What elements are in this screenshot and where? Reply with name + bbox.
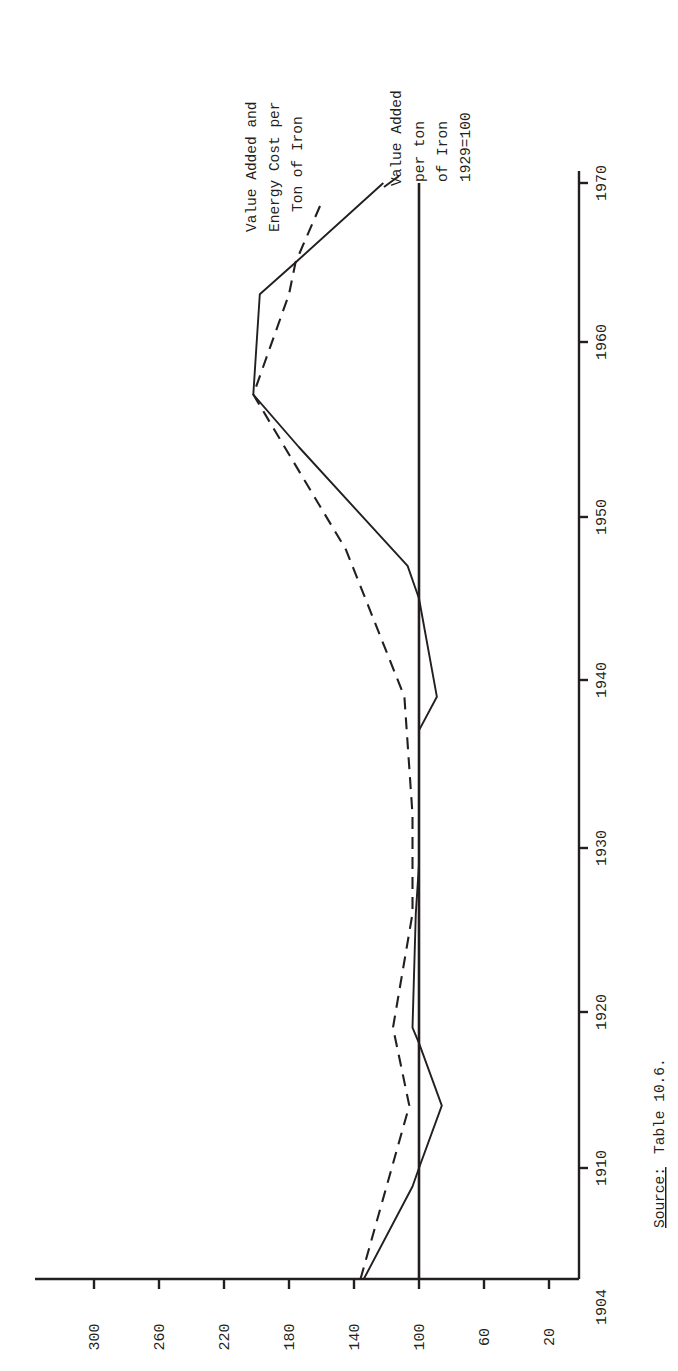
value-tick-label: 260 bbox=[152, 1323, 169, 1350]
source-label: Source: bbox=[652, 1167, 668, 1228]
legend-dashed-line-1: Value Added and bbox=[244, 101, 260, 232]
year-tick-label: 1940 bbox=[594, 662, 611, 698]
year-tick-label: 1930 bbox=[594, 830, 611, 866]
value-tick-label: 100 bbox=[412, 1323, 429, 1350]
value-tick-label: 20 bbox=[542, 1328, 559, 1346]
year-tick-label: 1970 bbox=[594, 165, 611, 201]
legend-dashed-line-3: Ton of Iron bbox=[290, 116, 306, 212]
year-tick-label: 1960 bbox=[594, 324, 611, 360]
legend-solid-line-2: per ton bbox=[412, 121, 428, 182]
series-value-added bbox=[253, 183, 441, 1279]
legend-solid-line-4: 1929=100 bbox=[458, 112, 474, 182]
value-tick-label: 180 bbox=[282, 1323, 299, 1350]
value-tick-label: 220 bbox=[217, 1323, 234, 1350]
legend-solid: Value Added per ton of Iron 1929=100 bbox=[389, 90, 474, 186]
year-tick-label: 1920 bbox=[594, 994, 611, 1030]
line-chart: 2060100140180220260300 19041910192019301… bbox=[0, 0, 678, 1371]
legend-solid-line-1: Value Added bbox=[389, 90, 405, 186]
value-axis-ticks: 2060100140180220260300 bbox=[87, 1279, 559, 1351]
legend-dashed: Value Added and Energy Cost per Ton of I… bbox=[244, 101, 306, 232]
value-tick-label: 300 bbox=[87, 1323, 104, 1350]
legend-solid-line-3: of Iron bbox=[435, 121, 451, 182]
year-tick-label: 1904 bbox=[594, 1289, 611, 1325]
year-tick-label: 1910 bbox=[594, 1150, 611, 1186]
value-tick-label: 140 bbox=[347, 1323, 364, 1350]
value-tick-label: 60 bbox=[477, 1328, 494, 1346]
legend-dashed-line-2: Energy Cost per bbox=[267, 101, 283, 232]
series-value-added-energy-cost bbox=[253, 199, 412, 1279]
source-text: Table 10.6. bbox=[652, 1058, 668, 1154]
source-note: Source: Table 10.6. bbox=[652, 1058, 668, 1228]
year-tick-label: 1950 bbox=[594, 499, 611, 535]
year-axis-ticks: 19041910192019301940195019601970 bbox=[579, 165, 611, 1325]
